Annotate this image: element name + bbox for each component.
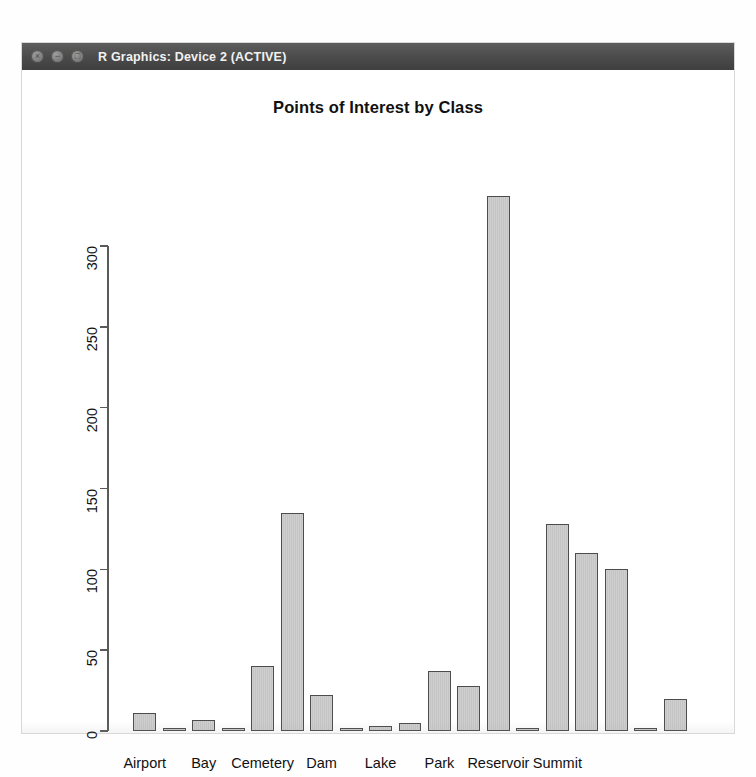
close-icon: × xyxy=(31,50,44,63)
bar xyxy=(575,553,598,731)
r-graphics-window: × − □ R Graphics: Device 2 (ACTIVE) Poin… xyxy=(22,43,734,733)
window-title: R Graphics: Device 2 (ACTIVE) xyxy=(98,50,287,64)
screenshot-canvas: × − □ R Graphics: Device 2 (ACTIVE) Poin… xyxy=(0,0,756,777)
x-tick-label: Reservoir xyxy=(467,755,529,771)
bar xyxy=(487,196,510,731)
minimize-icon: − xyxy=(51,50,64,63)
x-tick-label: Cemetery xyxy=(231,755,294,771)
plot-area: Points of Interest by Class 050100150200… xyxy=(22,70,734,733)
bar-series xyxy=(22,70,734,733)
bar xyxy=(605,569,628,731)
x-tick-label: Park xyxy=(425,755,455,771)
minimize-button[interactable]: − xyxy=(51,50,64,63)
page-edge-artifact xyxy=(22,721,734,733)
window-controls: × − □ xyxy=(31,50,84,63)
x-tick-label: Bay xyxy=(191,755,216,771)
maximize-icon: □ xyxy=(71,50,84,63)
x-tick-label: Dam xyxy=(306,755,337,771)
x-tick-label: Lake xyxy=(365,755,396,771)
bar xyxy=(546,524,569,731)
close-button[interactable]: × xyxy=(31,50,44,63)
maximize-button[interactable]: □ xyxy=(71,50,84,63)
bar xyxy=(281,513,304,731)
x-tick-label: Airport xyxy=(123,755,166,771)
x-tick-label: Summit xyxy=(533,755,582,771)
window-titlebar[interactable]: × − □ R Graphics: Device 2 (ACTIVE) xyxy=(22,43,734,70)
